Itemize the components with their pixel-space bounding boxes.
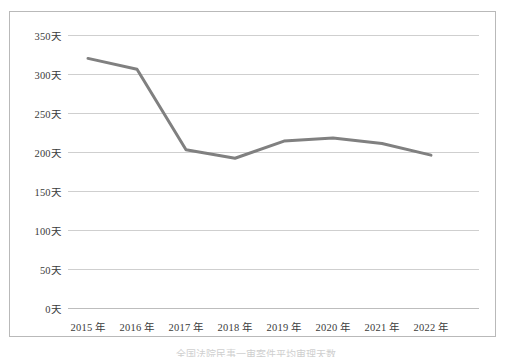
gridline-250 <box>68 113 479 114</box>
gridline-200 <box>68 152 479 153</box>
series-line-chart <box>10 12 497 338</box>
y-axis-label-200: 200天 <box>1 145 61 160</box>
y-axis-label-350: 350天 <box>1 28 61 43</box>
x-axis-label-2022: 2022 年 <box>401 319 461 334</box>
gridline-0-baseline <box>68 308 479 309</box>
gridline-50 <box>68 269 479 270</box>
line-chart-plot-area: 350天 300天 250天 200天 150天 100天 50天 0天 201… <box>10 12 497 338</box>
gridline-100 <box>68 230 479 231</box>
gridline-350 <box>68 35 479 36</box>
figure-caption: 全国法院民事一审案件平均审理天数 <box>0 348 511 357</box>
y-axis-label-0: 0天 <box>1 301 61 316</box>
y-axis-label-300: 300天 <box>1 67 61 82</box>
y-axis-label-50: 50天 <box>1 262 61 277</box>
chart-frame: 350天 300天 250天 200天 150天 100天 50天 0天 201… <box>9 11 496 337</box>
y-axis-label-250: 250天 <box>1 106 61 121</box>
y-axis-label-100: 100天 <box>1 223 61 238</box>
gridline-150 <box>68 191 479 192</box>
gridline-300 <box>68 74 479 75</box>
y-axis-label-150: 150天 <box>1 184 61 199</box>
